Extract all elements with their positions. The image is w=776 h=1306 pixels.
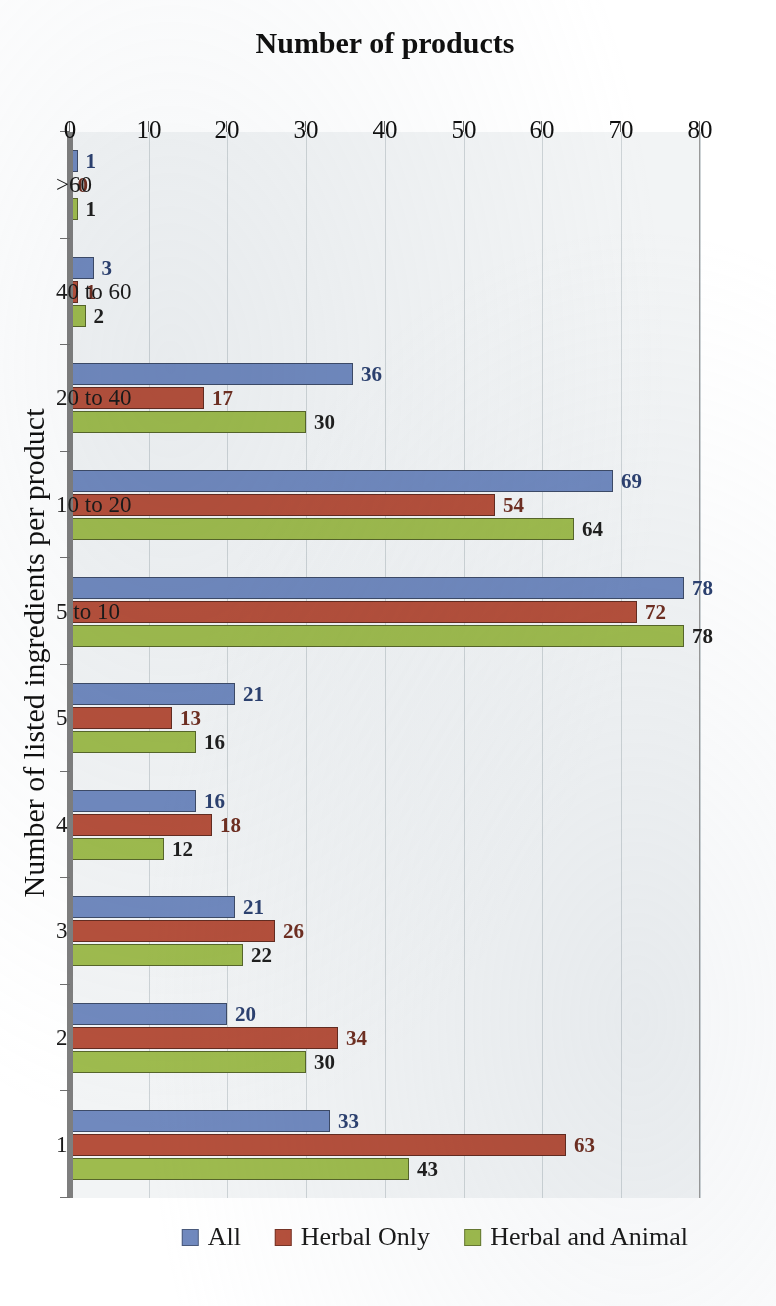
bar-value-label: 34 (346, 1028, 367, 1049)
bar-all (70, 257, 94, 279)
bar-row: 72 (70, 601, 699, 623)
category-label: 2 (56, 1025, 68, 1051)
category-tick (60, 1090, 70, 1091)
category-tick (60, 877, 70, 878)
category-label: 5 (56, 705, 68, 731)
bar-value-label: 21 (243, 897, 264, 918)
category-label: 3 (56, 919, 68, 945)
bar-value-label: 72 (645, 601, 666, 622)
category-tick (60, 451, 70, 452)
bar-all (70, 364, 354, 386)
bar-value-label: 78 (692, 625, 713, 646)
x-axis-title: Number of listed ingredients per product (17, 408, 51, 897)
value-tick-label: 50 (451, 116, 476, 144)
legend-entry-all: All (182, 1224, 241, 1250)
bar-row: 63 (70, 1134, 699, 1156)
bar-all (70, 577, 684, 599)
legend-label: All (208, 1224, 241, 1250)
bar-value-label: 2 (94, 305, 105, 326)
bar-value-label: 30 (314, 412, 335, 433)
bar-value-label: 26 (283, 921, 304, 942)
bar-row: 64 (70, 518, 699, 540)
bar-herbal-only (70, 921, 275, 943)
category-label: 40 to 60 (56, 279, 131, 305)
category-tick (60, 344, 70, 345)
bar-value-label: 12 (173, 838, 194, 859)
bar-value-label: 17 (212, 388, 233, 409)
bar-herbal-only (70, 601, 637, 623)
legend-swatch-icon (275, 1229, 292, 1246)
category-tick (60, 771, 70, 772)
bar-row: 17 (70, 388, 699, 410)
bar-all (70, 1110, 330, 1132)
bar-all (70, 470, 613, 492)
value-tick-label: 40 (373, 116, 398, 144)
bar-row: 1 (70, 150, 699, 172)
legend-label: Herbal and Animal (490, 1224, 688, 1250)
bar-row: 16 (70, 790, 699, 812)
bar-value-label: 1 (86, 151, 97, 172)
bar-row: 22 (70, 945, 699, 967)
bar-value-label: 21 (243, 684, 264, 705)
bar-row: 21 (70, 897, 699, 919)
bar-row: 78 (70, 577, 699, 599)
bar-row: 20 (70, 1003, 699, 1025)
category-label: 4 (56, 812, 68, 838)
bar-herbal-and-animal (70, 1158, 409, 1180)
bar-value-label: 3 (102, 257, 113, 278)
category-label: 1 (56, 1132, 68, 1158)
bar-herbal-only (70, 707, 172, 729)
bar-row: 33 (70, 1110, 699, 1132)
bar-row: 78 (70, 625, 699, 647)
bar-value-label: 30 (314, 1052, 335, 1073)
bar-herbal-and-animal (70, 945, 243, 967)
value-tick-label: 20 (215, 116, 240, 144)
bar-herbal-and-animal (70, 412, 306, 434)
bar-row: 54 (70, 494, 699, 516)
bar-value-label: 16 (204, 790, 225, 811)
value-tick-label: 70 (609, 116, 634, 144)
bar-herbal-only (70, 1134, 566, 1156)
bar-herbal-and-animal (70, 1051, 306, 1073)
category-tick (60, 1197, 70, 1198)
category-label: 20 to 40 (56, 386, 131, 412)
bar-value-label: 22 (251, 945, 272, 966)
bar-row: 12 (70, 838, 699, 860)
bar-row: 30 (70, 412, 699, 434)
category-label: 5 to 10 (56, 599, 120, 625)
category-tick (60, 984, 70, 985)
bar-herbal-and-animal (70, 731, 196, 753)
bar-value-label: 33 (338, 1110, 359, 1131)
bar-value-label: 43 (417, 1158, 438, 1179)
bar-value-label: 1 (86, 199, 97, 220)
legend-entry-herbal-and-animal: Herbal and Animal (464, 1224, 688, 1250)
bar-value-label: 78 (692, 577, 713, 598)
value-tick-label: 30 (294, 116, 319, 144)
bar-herbal-only (70, 1027, 338, 1049)
chart-page: AllHerbal OnlyHerbal and Animal 33634320… (0, 0, 776, 1306)
bar-row: 1 (70, 281, 699, 303)
bar-row: 69 (70, 470, 699, 492)
category-tick (60, 664, 70, 665)
legend-label: Herbal Only (301, 1224, 430, 1250)
legend-swatch-icon (464, 1229, 481, 1246)
bar-herbal-only (70, 494, 495, 516)
bar-value-label: 63 (574, 1134, 595, 1155)
legend-entry-herbal-only: Herbal Only (275, 1224, 430, 1250)
bar-value-label: 64 (582, 519, 603, 540)
bar-value-label: 54 (503, 495, 524, 516)
plot-area: 3363432034302126221618122113167872786954… (70, 132, 700, 1198)
y-axis-title: Number of products (70, 26, 700, 60)
category-tick (60, 238, 70, 239)
bar-herbal-and-animal (70, 838, 165, 860)
bar-herbal-and-animal (70, 625, 684, 647)
gridline (700, 132, 701, 1198)
bar-row: 21 (70, 683, 699, 705)
bar-value-label: 20 (236, 1004, 257, 1025)
rotated-scan-container: AllHerbal OnlyHerbal and Animal 33634320… (0, 0, 776, 1306)
bar-row: 18 (70, 814, 699, 836)
value-tick-label: 10 (136, 116, 161, 144)
category-tick (60, 557, 70, 558)
bar-row: 34 (70, 1027, 699, 1049)
bar-row: 13 (70, 707, 699, 729)
